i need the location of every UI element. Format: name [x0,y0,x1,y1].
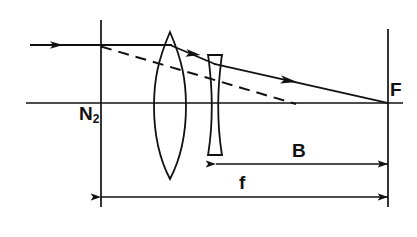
nodal-point-label: N2 [79,104,99,123]
back-focal-distance-label: B [292,141,306,160]
focal-point-label: F [390,80,402,99]
diagram-canvas [0,0,417,237]
nodal-point-subscript: 2 [93,112,100,126]
nodal-point-letter: N [79,103,93,124]
optics-ray-diagram: N2 F B f [0,0,417,237]
biconvex-lens [154,32,186,179]
refracted-ray-after-concave [214,64,389,103]
biconcave-lens [208,55,222,155]
focal-length-label: f [239,173,245,192]
